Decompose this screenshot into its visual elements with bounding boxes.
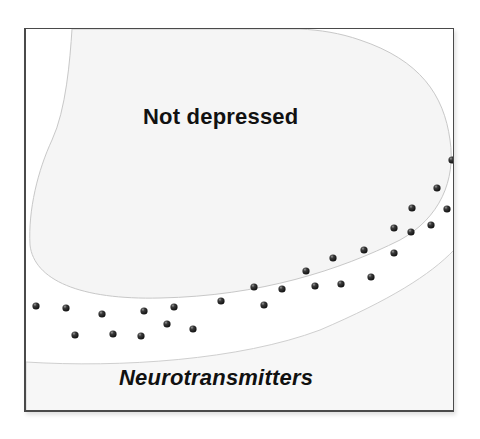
not-depressed-label: Not depressed: [143, 104, 298, 130]
neurotransmitter-dot: [448, 156, 455, 163]
neurotransmitters-label: Neurotransmitters: [119, 365, 313, 391]
neurotransmitter-dot: [433, 184, 440, 191]
neurotransmitter-dot: [407, 228, 414, 235]
neurotransmitter-dot: [98, 310, 105, 317]
neurotransmitter-dot: [32, 302, 39, 309]
upper-region-shape: [30, 29, 451, 298]
neurotransmitter-dot: [278, 285, 285, 292]
neurotransmitter-dot: [109, 330, 116, 337]
neurotransmitter-dot: [329, 254, 336, 261]
neurotransmitter-dot: [71, 331, 78, 338]
neurotransmitter-dot: [367, 273, 374, 280]
neurotransmitter-dot: [189, 325, 196, 332]
neurotransmitter-dot: [302, 267, 309, 274]
neurotransmitter-dot: [260, 301, 267, 308]
neurotransmitter-dot: [390, 224, 397, 231]
neurotransmitter-dot: [137, 332, 144, 339]
neurotransmitter-dot: [170, 303, 177, 310]
neurotransmitter-dot: [62, 304, 69, 311]
neurotransmitter-dot: [217, 297, 224, 304]
neurotransmitter-dot: [311, 282, 318, 289]
neurotransmitter-dot: [360, 246, 367, 253]
neurotransmitter-dot: [408, 204, 415, 211]
neurotransmitter-dot: [163, 320, 170, 327]
neurotransmitter-dot: [443, 205, 450, 212]
neurotransmitter-dot: [250, 283, 257, 290]
neurotransmitter-dot: [427, 221, 434, 228]
neurotransmitter-dot: [337, 280, 344, 287]
neurotransmitter-dot: [390, 249, 397, 256]
neurotransmitter-dot: [140, 307, 147, 314]
